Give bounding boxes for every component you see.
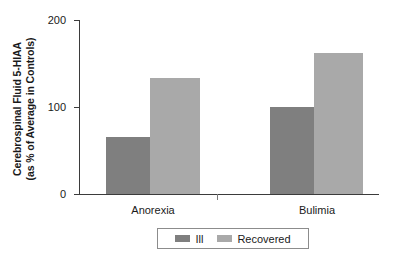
- y-tick-mark-0: 0: [74, 194, 79, 195]
- bar-chart: Cerebrospinal Fluid 5-HIAA (as % of Aver…: [0, 0, 407, 265]
- y-tick-label-0: 0: [60, 189, 66, 200]
- legend-label-recovered: Recovered: [237, 233, 290, 245]
- x-axis-line: [79, 194, 379, 195]
- legend-item-ill: Ill: [175, 233, 203, 245]
- y-axis-title-line-1: Cerebrospinal Fluid 5-HIAA: [11, 11, 24, 207]
- y-tick-mark-100: 100: [74, 107, 79, 108]
- y-axis-title-line-2: (as % of Average in Controls): [24, 11, 37, 207]
- bar-anorexia-ill: [106, 137, 150, 194]
- y-tick-mark-200: 200: [74, 20, 79, 21]
- legend-swatch-icon-ill: [175, 235, 190, 242]
- x-category-label-bulimia: Bulimia: [299, 204, 335, 216]
- y-axis-line: [79, 20, 80, 195]
- legend-label-ill: Ill: [195, 233, 203, 245]
- bar-anorexia-recovered: [150, 78, 200, 194]
- x-category-label-anorexia: Anorexia: [131, 204, 174, 216]
- y-tick-label-200: 200: [48, 15, 66, 26]
- legend-item-recovered: Recovered: [217, 233, 290, 245]
- x-tick-mark-group-divider: [217, 194, 218, 200]
- y-tick-label-100: 100: [48, 102, 66, 113]
- plot-area: 200 100 0 Anorexia Bulimia: [79, 20, 379, 195]
- y-axis-title: Cerebrospinal Fluid 5-HIAA (as % of Aver…: [11, 11, 41, 207]
- bar-bulimia-recovered: [314, 53, 363, 194]
- legend: Ill Recovered: [157, 228, 309, 249]
- bar-bulimia-ill: [270, 107, 314, 194]
- legend-swatch-icon-recovered: [217, 235, 232, 242]
